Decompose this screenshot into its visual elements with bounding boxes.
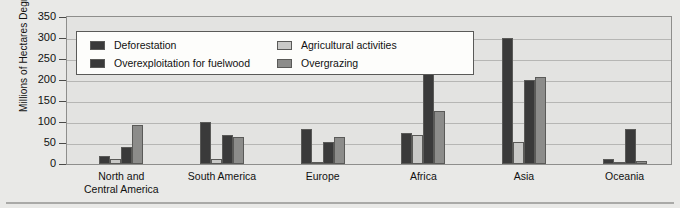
x-axis-label: Africa (368, 170, 478, 183)
y-tick-mark (59, 143, 66, 144)
y-tick-mark (59, 80, 66, 81)
bar (614, 162, 625, 164)
x-axis-label-line: Africa (368, 170, 478, 183)
y-tick-label: 150 (16, 94, 56, 106)
x-axis-label: North andCentral America (66, 170, 176, 196)
bar (603, 159, 614, 164)
y-tick-mark (59, 17, 66, 18)
bar (502, 38, 513, 164)
y-tick-mark (59, 38, 66, 39)
y-tick-label: 250 (16, 52, 56, 64)
bar (233, 137, 244, 164)
legend-label: Overgrazing (301, 57, 358, 69)
x-axis-label-line: South America (167, 170, 277, 183)
legend-swatch-icon (277, 41, 292, 50)
y-tick-label: 100 (16, 115, 56, 127)
x-axis-label-line: Europe (268, 170, 378, 183)
bar (323, 142, 334, 164)
legend-swatch-icon (90, 41, 105, 50)
legend-entry: Overexploitation for fuelwood (90, 57, 250, 69)
bar (524, 80, 535, 164)
bar (312, 162, 323, 164)
chart-figure: Millions of Hectares Degraded 3503002502… (0, 0, 680, 208)
legend-label: Agricultural activities (301, 39, 397, 51)
x-axis-label: South America (167, 170, 277, 183)
bar (334, 137, 345, 164)
legend-swatch-icon (90, 59, 105, 68)
bar-group (603, 17, 647, 164)
bar (211, 159, 222, 164)
figure-bottom-rule (6, 202, 674, 204)
bar (132, 125, 143, 164)
bar (99, 156, 110, 164)
legend-entry: Agricultural activities (277, 39, 397, 51)
x-axis-label-line: Asia (469, 170, 579, 183)
y-tick-label: 200 (16, 73, 56, 85)
y-tick-mark (59, 59, 66, 60)
legend-entry: Deforestation (90, 39, 176, 51)
legend-entry: Overgrazing (277, 57, 358, 69)
y-tick-label: 0 (16, 157, 56, 169)
y-tick-mark (59, 101, 66, 102)
y-tick-mark (59, 122, 66, 123)
y-tick-label: 300 (16, 31, 56, 43)
chart-legend: DeforestationOverexploitation for fuelwo… (76, 31, 474, 75)
bar (110, 159, 121, 164)
x-axis-label-line: North and (66, 170, 176, 183)
y-tick-label: 350 (16, 10, 56, 22)
y-tick-label: 50 (16, 136, 56, 148)
bar (301, 129, 312, 164)
legend-label: Overexploitation for fuelwood (114, 57, 250, 69)
bar (200, 122, 211, 164)
bar (636, 161, 647, 164)
bar (412, 135, 423, 164)
x-axis-label-line: Oceania (570, 170, 680, 183)
bar (401, 133, 412, 164)
x-axis-label: Europe (268, 170, 378, 183)
x-axis-label: Oceania (570, 170, 680, 183)
bar (222, 135, 233, 164)
bar (434, 111, 445, 164)
x-axis-category-labels: North andCentral AmericaSouth AmericaEur… (67, 170, 671, 200)
y-tick-mark (59, 164, 66, 165)
bar (513, 142, 524, 164)
bar (535, 77, 546, 164)
bar (423, 60, 434, 164)
x-axis-label: Asia (469, 170, 579, 183)
legend-label: Deforestation (114, 39, 176, 51)
bar (121, 147, 132, 164)
legend-swatch-icon (277, 59, 292, 68)
x-axis-label-line: Central America (66, 183, 176, 196)
bar-group (502, 17, 546, 164)
bar (625, 129, 636, 164)
